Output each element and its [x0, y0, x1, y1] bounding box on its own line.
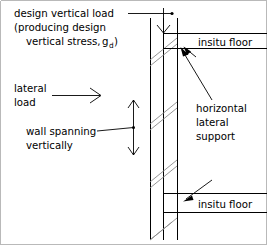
lateral-load-arrow: [52, 88, 101, 103]
vertical-stress-symbol: g: [102, 36, 108, 47]
insitu-floor-top-label: insitu floor: [198, 37, 253, 48]
lateral-load-line-1: lateral: [14, 83, 47, 94]
vertical-load-close-paren: ): [114, 36, 118, 47]
vertical-load-line-3: vertical stress,: [26, 36, 101, 47]
lateral-load-line-2: load: [14, 97, 36, 108]
structural-wall-diagram: design vertical load (producing design v…: [0, 0, 267, 245]
horizontal-lateral-support-label: horizontal lateral support: [196, 103, 247, 142]
support-line-1: horizontal: [196, 103, 247, 114]
lateral-support-leader: [181, 47, 213, 100]
design-vertical-load-label: design vertical load (producing design v…: [14, 8, 118, 50]
support-line-3: support: [196, 131, 235, 142]
wall-spanning-line-1: wall spanning: [26, 126, 96, 137]
diagram-canvas: design vertical load (producing design v…: [0, 0, 267, 245]
wall-spanning-label: wall spanning vertically: [26, 126, 96, 151]
support-line-2: lateral: [196, 117, 229, 128]
wall-span-arrow: [97, 100, 139, 155]
wall-spanning-line-2: vertically: [26, 140, 73, 151]
lateral-load-label: lateral load: [14, 83, 47, 108]
insitu-floor-bottom-label: insitu floor: [198, 199, 253, 210]
vertical-load-line-1: design vertical load: [14, 8, 114, 19]
vertical-load-line-2: (producing design: [14, 22, 106, 33]
